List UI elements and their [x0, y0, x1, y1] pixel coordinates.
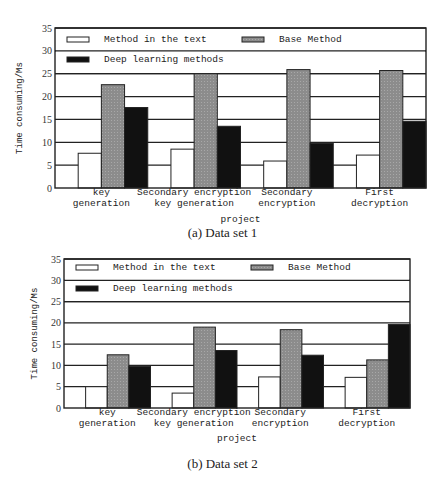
y-tick-label: 35: [51, 254, 61, 265]
chart-data-set-2: 05101520253035Method in the textBase Met…: [0, 0, 445, 477]
bar: [215, 351, 237, 408]
x-axis-label: project: [217, 433, 257, 444]
x-category-label: key generation: [154, 418, 234, 429]
bar: [302, 355, 324, 408]
y-tick-label: 25: [51, 296, 61, 307]
bar: [367, 360, 389, 408]
bar: [172, 393, 194, 408]
bar: [86, 387, 108, 408]
legend-label: Base Method: [288, 262, 351, 273]
legend-label: Method in the text: [113, 262, 216, 273]
legend-swatch: [76, 286, 98, 291]
bar: [280, 330, 302, 408]
legend-swatch: [76, 265, 98, 270]
y-tick-label: 30: [51, 275, 61, 286]
bar: [259, 377, 281, 408]
legend-swatch: [251, 265, 273, 270]
bar: [388, 325, 410, 408]
y-tick-label: 0: [56, 403, 61, 414]
y-axis-label: Time consuming/Ms: [30, 288, 40, 380]
bar: [345, 377, 367, 408]
y-tick-label: 15: [51, 339, 61, 350]
x-category-label: decryption: [338, 418, 395, 429]
y-tick-label: 10: [51, 360, 61, 371]
bar-chart-svg: 05101520253035Method in the textBase Met…: [0, 0, 445, 477]
y-tick-label: 20: [51, 317, 61, 328]
bar: [107, 355, 129, 408]
x-category-label: encryption: [252, 418, 309, 429]
caption-data-set-2: (b) Data set 2: [0, 456, 445, 472]
legend-label: Deep learning methods: [113, 283, 233, 294]
x-category-label: generation: [79, 418, 136, 429]
bar: [194, 327, 216, 408]
bar: [129, 366, 151, 408]
y-tick-label: 5: [56, 381, 61, 392]
